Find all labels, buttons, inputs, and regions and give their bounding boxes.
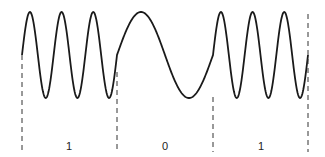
modulated-waveform bbox=[22, 12, 308, 98]
bit-labels: 1 0 1 bbox=[66, 140, 264, 152]
bit-boundary-lines bbox=[22, 14, 308, 152]
fsk-waveform-diagram: 1 0 1 bbox=[0, 0, 325, 157]
bit-label-1: 1 bbox=[66, 140, 72, 152]
bit-label-2: 0 bbox=[162, 140, 168, 152]
bit-label-3: 1 bbox=[258, 140, 264, 152]
